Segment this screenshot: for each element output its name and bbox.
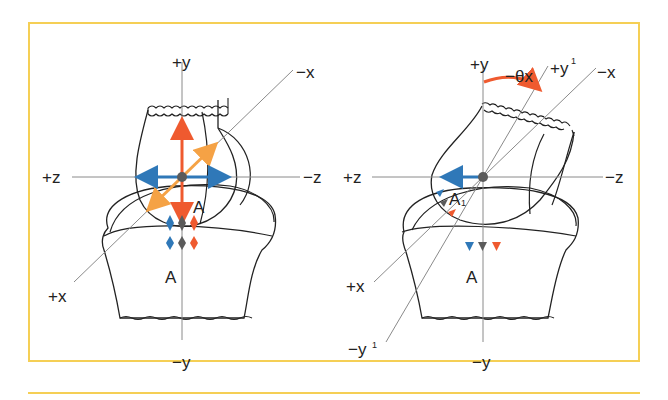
left-panel: +y −y +z −z +x −x A A bbox=[42, 53, 321, 372]
label-minus-y: −y bbox=[172, 353, 191, 372]
label-minus-x: −x bbox=[597, 63, 616, 82]
label-plus-z: +z bbox=[42, 168, 60, 187]
label-minus-y-prime-mark: 1 bbox=[372, 340, 377, 350]
lower-bone-outline bbox=[403, 188, 579, 318]
label-minus-x: −x bbox=[296, 63, 315, 82]
origin-point bbox=[177, 172, 187, 182]
label-plus-z: +z bbox=[343, 168, 361, 187]
label-plus-y-prime: +y bbox=[550, 59, 569, 78]
label-point-a1: A bbox=[449, 190, 461, 209]
contact-markers-upper bbox=[166, 215, 198, 231]
label-contact-a: A bbox=[165, 268, 177, 287]
y-prime-axis-line bbox=[386, 66, 548, 342]
right-panel: +y −y +z −z +x −x +y 1 −y 1 −θx A 1 A bbox=[343, 55, 623, 372]
label-minus-z: −z bbox=[303, 168, 321, 187]
label-plus-x: +x bbox=[346, 277, 365, 296]
label-minus-y-prime: −y bbox=[348, 340, 367, 359]
label-rotation: −θx bbox=[505, 67, 533, 86]
contact-markers-lower bbox=[166, 236, 198, 250]
label-point-a: A bbox=[193, 198, 205, 217]
label-minus-z: −z bbox=[605, 168, 623, 187]
contact-markers-lower bbox=[465, 242, 501, 251]
label-contact-a: A bbox=[466, 268, 478, 287]
label-minus-y: −y bbox=[472, 353, 491, 372]
origin-point bbox=[478, 172, 488, 182]
label-point-a1-sub: 1 bbox=[461, 198, 466, 208]
x-translation-arrow bbox=[182, 146, 214, 177]
label-plus-y-prime-mark: 1 bbox=[571, 56, 576, 66]
joint-axes-diagram: +y −y +z −z +x −x A A bbox=[0, 0, 668, 400]
label-plus-y: +y bbox=[172, 53, 191, 72]
label-plus-y: +y bbox=[470, 55, 489, 74]
label-plus-x: +x bbox=[48, 287, 67, 306]
